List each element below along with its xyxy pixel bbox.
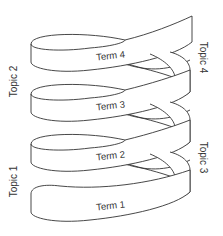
topic-2-label: Topic 2 [8,66,19,98]
topic-1-label: Topic 1 [8,166,19,198]
band-term-1 [31,170,190,221]
topic-4-label: Topic 4 [198,42,209,74]
helix-diagram: Term 4 Term 3 Term 2 Term 1 Topic 2 Topi… [0,0,223,236]
topic-3-label: Topic 3 [198,142,209,174]
